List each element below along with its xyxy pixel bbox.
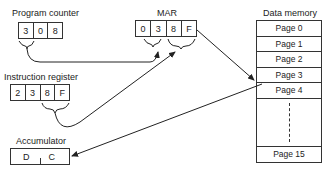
data-flow-arrows [0, 0, 328, 173]
